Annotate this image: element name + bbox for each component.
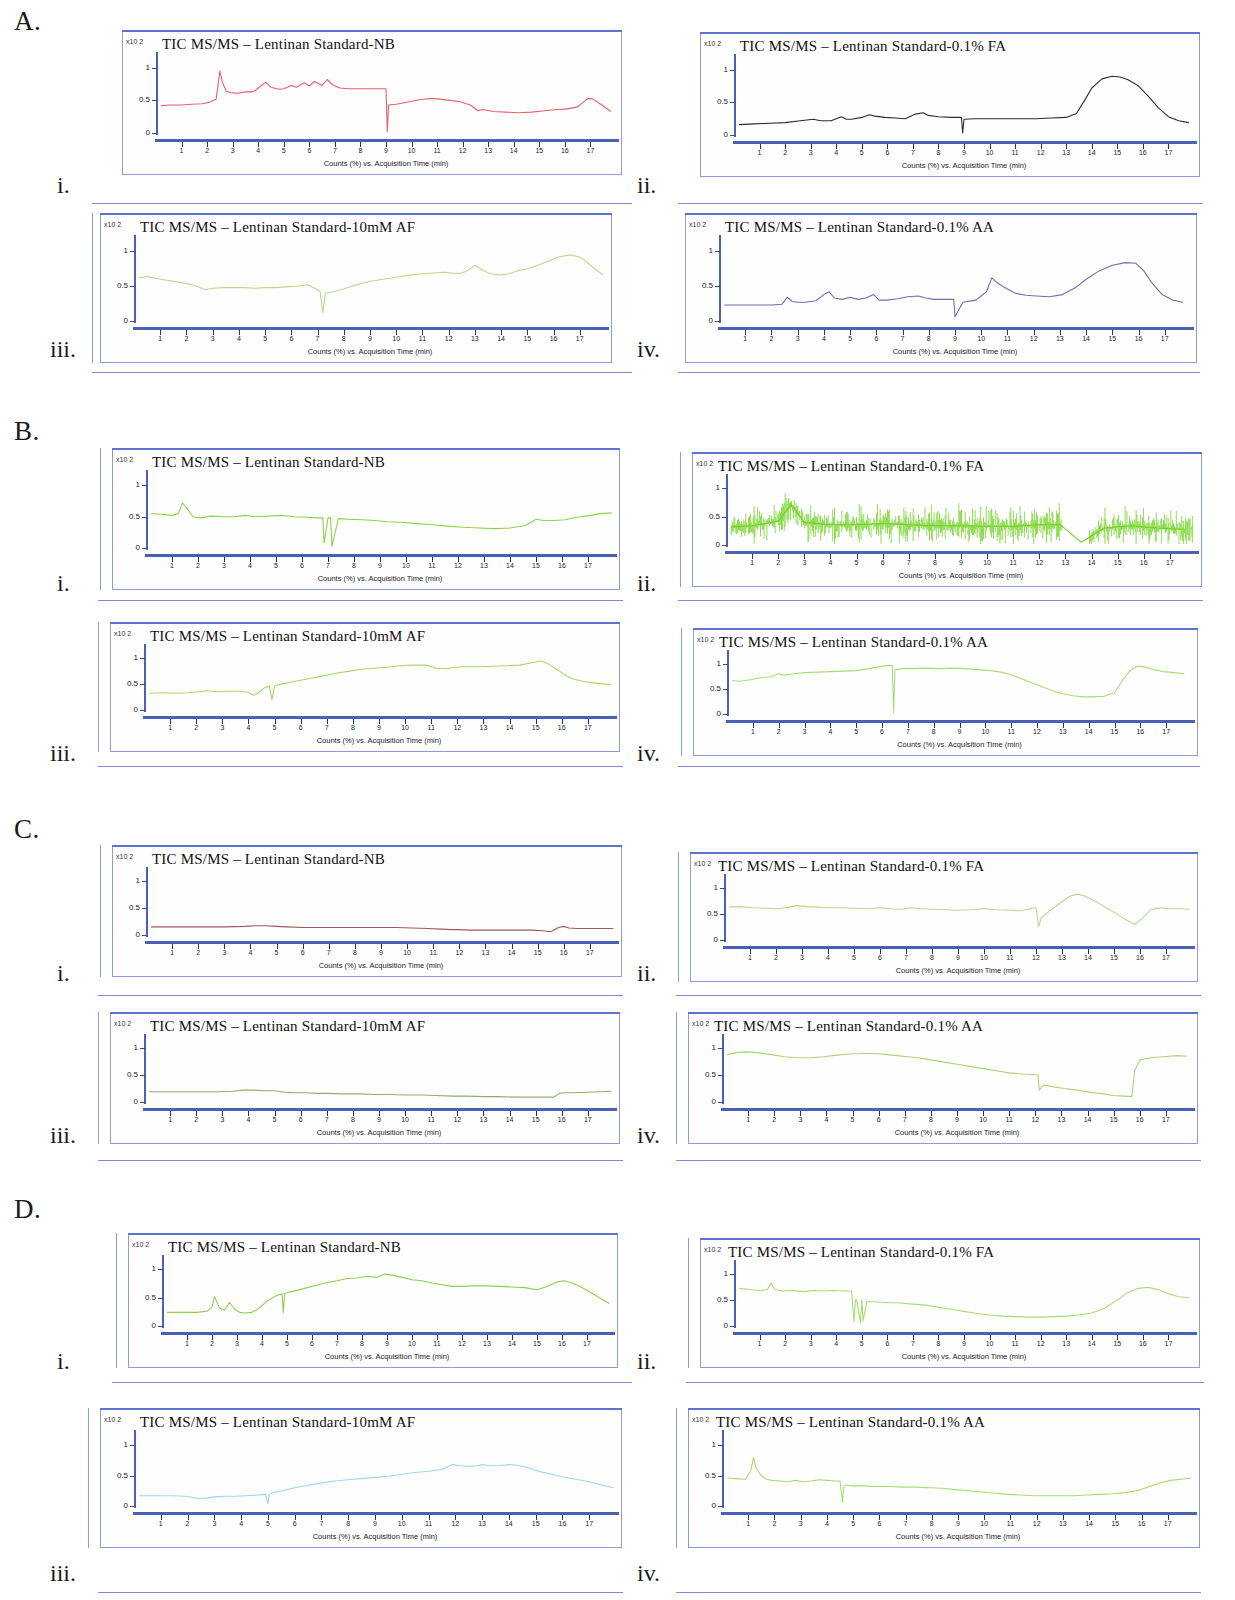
subpanel-label-a-iii: iii. [50,336,76,363]
panel-divider [678,203,1203,204]
panel-divider [92,372,632,373]
subpanel-label-b-ii: ii. [637,570,656,597]
chromatogram-panel-d-ii: TIC MS/MS – Lentinan Standard-0.1% FAx10… [700,1238,1200,1368]
tic-trace [112,845,622,977]
panel-divider [98,995,623,996]
subpanel-label-a-iv: iv. [637,336,660,363]
panel-divider [686,1382,1204,1383]
tic-trace [693,628,1198,756]
panel-side-rule [100,448,101,590]
panel-divider [112,1382,632,1383]
subpanel-label-d-iii: iii. [50,1560,76,1587]
tic-trace [112,448,620,590]
panel-divider [98,1592,623,1593]
panel-side-rule [116,1233,117,1368]
panel-divider [676,1160,1201,1161]
subpanel-label-c-iii: iii. [50,1122,76,1149]
chromatogram-panel-b-iii: TIC MS/MS – Lentinan Standard-10mM AFx10… [110,622,620,752]
panel-side-rule [680,452,681,587]
chromatogram-panel-b-iv: TIC MS/MS – Lentinan Standard-0.1% AAx10… [693,628,1198,756]
section-letter-b: B. [14,416,40,447]
panel-side-rule [676,1408,677,1548]
chromatogram-panel-a-i: TIC MS/MS – Lentinan Standard-NBx10 210.… [122,30,622,175]
subpanel-label-d-i: i. [57,1348,70,1375]
subpanel-label-b-i: i. [57,570,70,597]
subpanel-label-b-iv: iv. [637,740,660,767]
panel-divider [678,766,1200,767]
panel-divider [92,203,632,204]
tic-trace [100,1408,622,1548]
subpanel-label-d-ii: ii. [637,1348,656,1375]
section-letter-c: C. [14,814,40,845]
panel-side-rule [98,622,99,752]
tic-trace [110,622,620,752]
panel-side-rule [88,1408,89,1548]
tic-trace [128,1233,618,1368]
subpanel-label-c-ii: ii. [637,960,656,987]
subpanel-label-a-i: i. [57,172,70,199]
tic-trace [100,213,612,363]
tic-trace [122,30,622,175]
tic-trace [688,1408,1200,1548]
panel-side-rule [681,628,682,756]
panel-divider [98,766,623,767]
chromatogram-panel-d-iv: TIC MS/MS – Lentinan Standard-0.1% AAx10… [688,1408,1200,1548]
chromatogram-panel-a-ii: TIC MS/MS – Lentinan Standard-0.1% FAx10… [700,32,1200,177]
chromatogram-panel-a-iv: TIC MS/MS – Lentinan Standard-0.1% AAx10… [685,213,1197,363]
subpanel-label-c-iv: iv. [637,1122,660,1149]
panel-side-rule [676,1012,677,1144]
panel-side-rule [100,845,101,977]
panel-side-rule [678,852,679,982]
panel-side-rule [92,213,93,363]
chromatogram-panel-b-ii: TIC MS/MS – Lentinan Standard-0.1% FAx10… [692,452,1202,587]
subpanel-label-d-iv: iv. [637,1560,660,1587]
panel-divider [678,372,1200,373]
chromatogram-panel-c-iii: TIC MS/MS – Lentinan Standard-10mM AFx10… [110,1012,620,1144]
tic-trace [110,1012,620,1144]
tic-trace [700,1238,1200,1368]
panel-divider [676,1592,1201,1593]
subpanel-label-c-i: i. [57,960,70,987]
chromatogram-panel-c-iv: TIC MS/MS – Lentinan Standard-0.1% AAx10… [688,1012,1198,1144]
panel-divider [676,995,1201,996]
chromatogram-panel-d-i: TIC MS/MS – Lentinan Standard-NBx10 210.… [128,1233,618,1368]
panel-side-rule [98,1012,99,1144]
panel-divider [98,600,623,601]
chromatogram-panel-a-iii: TIC MS/MS – Lentinan Standard-10mM AFx10… [100,213,612,363]
tic-trace [690,852,1198,982]
chromatogram-panel-b-i: TIC MS/MS – Lentinan Standard-NBx10 210.… [112,448,620,590]
tic-trace [700,32,1200,177]
section-letter-d: D. [14,1194,41,1225]
chromatogram-panel-c-i: TIC MS/MS – Lentinan Standard-NBx10 210.… [112,845,622,977]
chromatogram-panel-d-iii: TIC MS/MS – Lentinan Standard-10mM AFx10… [100,1408,622,1548]
subpanel-label-b-iii: iii. [50,740,76,767]
tic-trace [688,1012,1198,1144]
tic-trace [692,452,1202,587]
section-letter-a: A. [14,6,41,37]
panel-divider [98,1160,623,1161]
tic-trace [685,213,1197,363]
panel-side-rule [688,1238,689,1368]
subpanel-label-a-ii: ii. [637,172,656,199]
chromatogram-panel-c-ii: TIC MS/MS – Lentinan Standard-0.1% FAx10… [690,852,1198,982]
panel-divider [678,600,1203,601]
